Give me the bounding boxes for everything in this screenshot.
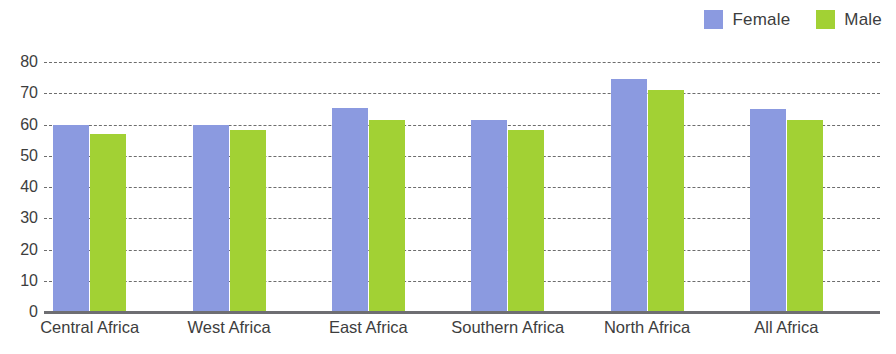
x-axis-tick-labels: Central AfricaWest AfricaEast AfricaSout… — [44, 318, 880, 348]
y-axis-tick-label: 30 — [20, 210, 38, 226]
chart-legend: Female Male — [0, 6, 890, 32]
bar-female-north-africa[interactable] — [611, 79, 647, 312]
legend-item-female[interactable]: Female — [704, 10, 790, 29]
x-axis-tick-label: West Africa — [187, 318, 270, 338]
bar-female-west-africa[interactable] — [193, 125, 229, 313]
y-axis-tick-label: 60 — [20, 117, 38, 133]
y-axis-tick-label: 40 — [20, 179, 38, 195]
bar-male-west-africa[interactable] — [230, 130, 266, 312]
y-axis-tick-label: 50 — [20, 148, 38, 164]
bar-male-north-africa[interactable] — [648, 90, 684, 312]
x-axis-tick-label: East Africa — [329, 318, 408, 338]
y-axis-tick-label: 0 — [29, 304, 38, 320]
x-axis-tick-label: Central Africa — [40, 318, 139, 338]
x-axis-tick-label: All Africa — [754, 318, 818, 338]
legend-label-male: Male — [844, 11, 882, 28]
bar-female-southern-africa[interactable] — [471, 120, 507, 312]
x-axis-line — [44, 311, 880, 314]
legend-item-male[interactable]: Male — [816, 10, 882, 29]
bar-female-east-africa[interactable] — [332, 108, 368, 312]
y-axis-tick-labels: 01020304050607080 — [0, 62, 38, 312]
bar-female-all-africa[interactable] — [750, 109, 786, 312]
bar-chart: Female Male 01020304050607080 Central Af… — [0, 0, 896, 354]
y-axis-tick-label: 20 — [20, 242, 38, 258]
plot-area — [44, 62, 880, 312]
legend-swatch-female-icon — [704, 10, 723, 29]
bar-male-all-africa[interactable] — [787, 120, 823, 312]
y-axis-tick-label: 80 — [20, 54, 38, 70]
x-axis-tick-label: North Africa — [604, 318, 690, 338]
y-axis-tick-label: 70 — [20, 85, 38, 101]
x-axis-tick-label: Southern Africa — [451, 318, 564, 338]
legend-label-female: Female — [732, 11, 790, 28]
y-axis-tick-label: 10 — [20, 273, 38, 289]
bar-male-east-africa[interactable] — [369, 120, 405, 312]
bar-male-southern-africa[interactable] — [508, 130, 544, 313]
bars-layer — [44, 62, 880, 312]
legend-swatch-male-icon — [816, 10, 835, 29]
bar-female-central-africa[interactable] — [53, 125, 89, 313]
bar-male-central-africa[interactable] — [90, 134, 126, 312]
